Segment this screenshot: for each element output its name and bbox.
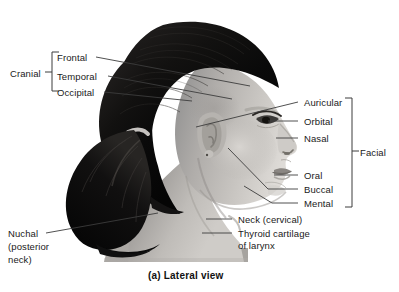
- label-orbital: Orbital: [304, 116, 333, 127]
- group-label-cranial: Cranial: [10, 68, 41, 79]
- label-temporal: Temporal: [57, 71, 97, 82]
- label-nuchal: Nuchal: [8, 228, 38, 239]
- bracket-facial: [345, 98, 352, 207]
- figure-graphic: [0, 0, 399, 292]
- label-thyroid-cartilage-line2: of larynx: [238, 240, 275, 251]
- label-oral: Oral: [304, 170, 322, 181]
- label-nuchal-neck: neck): [8, 254, 32, 265]
- label-nuchal-posterior: (posterior: [8, 241, 49, 252]
- label-nasal: Nasal: [304, 133, 329, 144]
- label-mental: Mental: [304, 198, 333, 209]
- label-neck-cervical: Neck (cervical): [238, 214, 302, 225]
- label-thyroid-cartilage: Thyroid cartilage: [238, 228, 310, 239]
- anatomy-figure: FrontalTemporalOccipitalAuricularOrbital…: [0, 0, 399, 292]
- label-occipital: Occipital: [57, 87, 94, 98]
- label-buccal: Buccal: [304, 184, 333, 195]
- figure-caption: (a) Lateral view: [148, 270, 223, 281]
- label-frontal: Frontal: [57, 52, 87, 63]
- label-auricular: Auricular: [304, 97, 342, 108]
- group-label-facial: Facial: [360, 147, 386, 158]
